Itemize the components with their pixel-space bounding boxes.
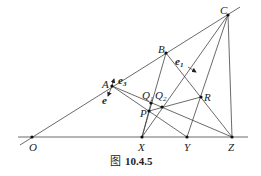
label-q1: Q1 (142, 89, 153, 103)
label-y: Y (184, 141, 192, 153)
point-r (199, 95, 202, 98)
label-z: Z (228, 141, 235, 153)
label-r: R (203, 91, 211, 103)
label-b: B (158, 43, 165, 55)
label-a: A (101, 78, 109, 90)
label-o: O (29, 141, 37, 153)
label-c: C (220, 4, 228, 16)
point-a (110, 84, 113, 87)
label-p: P (139, 107, 147, 119)
line-oabc (20, 7, 240, 145)
label-e: e (102, 94, 107, 106)
label-q2: Q2 (155, 89, 167, 103)
label-e3: e3 (118, 74, 127, 88)
geometry-diagram: O X Y Z A B C P R Q1 Q2 e1 e3 e 图10.4.5 (0, 0, 261, 176)
line-cz (228, 15, 232, 137)
point-p (147, 109, 150, 112)
label-e1: e1 (175, 55, 183, 69)
point-y (185, 135, 188, 138)
point-b (164, 51, 167, 54)
point-o (30, 135, 33, 138)
point-x (140, 135, 143, 138)
label-x: X (137, 141, 146, 153)
point-q2 (160, 105, 163, 108)
line-cy (187, 15, 228, 137)
line-az (112, 86, 232, 137)
figure-caption: 图10.4.5 (110, 155, 153, 167)
point-z (230, 135, 233, 138)
line-cx (142, 15, 228, 137)
